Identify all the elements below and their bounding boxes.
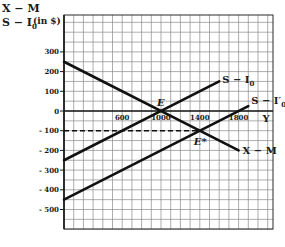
series-label-text: S − I [222,74,250,85]
y-tick-label: 300 [44,47,59,56]
grid [64,15,273,229]
y-tick-label: - 500 [39,205,59,214]
y-tick-label: 100 [44,87,59,96]
y-tick-label: - 400 [39,185,59,194]
y-tick-label: 0 [54,107,59,116]
plot-frame [64,15,273,229]
y-tick-label: 200 [44,67,59,76]
series-label-3: S − I′0 [251,95,285,109]
y-axis-title-line2: S − I0 [2,16,37,31]
y-axis-unit: (in $) [33,16,61,26]
y-axis-title-line2-main: S − I [2,16,32,29]
y-tick-label: - 200 [39,146,59,155]
series-label-subscript: 0 [281,100,285,109]
point-label-e-star: E* [193,136,208,147]
series-label-text: X − M [243,145,277,156]
y-tick-label: - 300 [39,166,59,175]
x-axis-title: Y [261,113,270,124]
y-tick-label: - 100 [39,126,59,135]
axes [64,15,273,229]
x-tick-label: 600 [115,113,130,122]
series-label-1: X − M [243,145,277,156]
x-tick-label: 1400 [190,113,210,122]
point-label-e: E [156,97,165,108]
chart: 3002001000- 100- 200- 300- 400- 50060010… [0,0,285,247]
y-axis-title-line1: X − M [2,2,40,15]
series-label-text: S − I′ [251,95,281,106]
series-label-subscript: 0 [249,79,254,88]
